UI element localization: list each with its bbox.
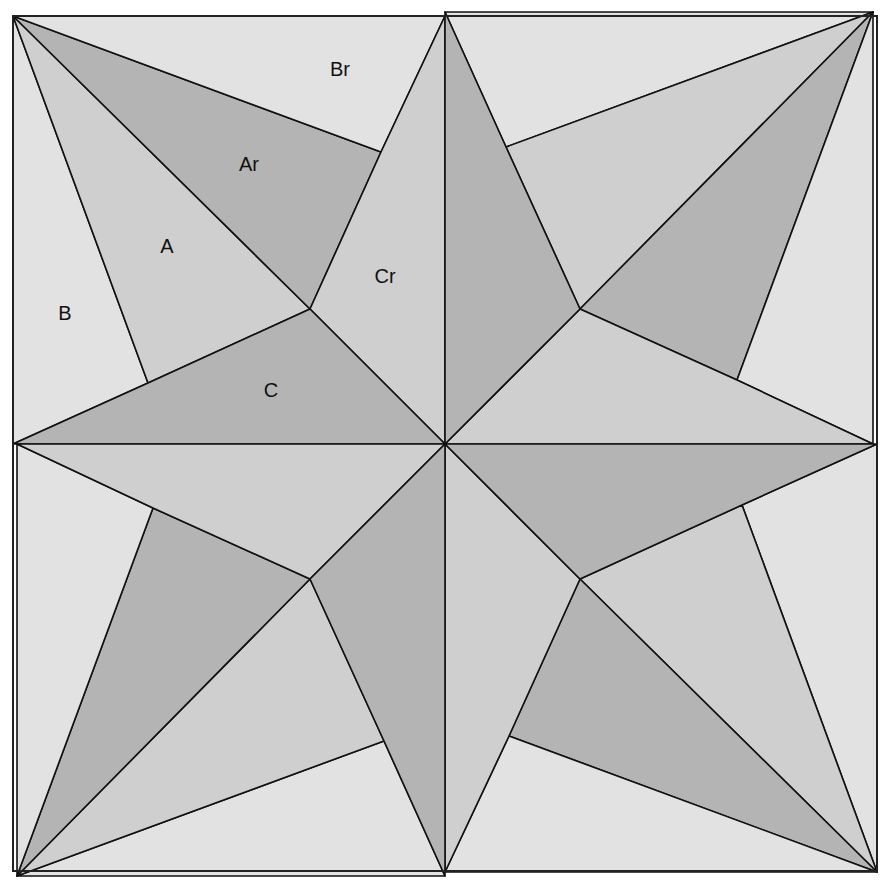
label-cr: Cr <box>374 265 395 287</box>
quilt-pieces <box>13 12 877 876</box>
label-a: A <box>160 235 174 257</box>
label-b: B <box>58 302 71 324</box>
label-c: C <box>264 379 278 401</box>
label-ar: Ar <box>239 153 259 175</box>
quilt-block-diagram: Br Ar A Cr B C <box>0 0 893 884</box>
label-br: Br <box>330 58 350 80</box>
